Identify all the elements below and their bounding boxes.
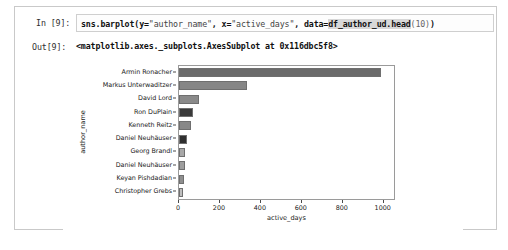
y-tick-mark xyxy=(173,98,176,99)
y-tick-label: Armin Ronacher xyxy=(122,68,172,76)
y-tick-label: Kenneth Reitz xyxy=(129,121,173,129)
bar xyxy=(179,121,191,130)
x-tick-label: 0 xyxy=(176,204,180,212)
bar-row xyxy=(179,106,394,119)
code-x-keyword: x= xyxy=(222,19,232,29)
matplotlib-figure: author_name Armin RonacherMarkus Unterwa… xyxy=(63,59,463,231)
x-tick-mark xyxy=(219,200,220,203)
y-tick-mark xyxy=(173,164,176,165)
code-y-value: "author_name" xyxy=(149,19,212,29)
y-tick-label: Daniel Neuhäuser xyxy=(116,134,172,142)
x-axis-title: active_days xyxy=(178,214,395,222)
y-tick-mark xyxy=(173,111,176,112)
bar xyxy=(179,81,247,90)
y-tick-label: Georg Brandl xyxy=(130,147,172,155)
y-tick-label: David Lord xyxy=(138,94,172,102)
output-repr-text: <matplotlib.axes._subplots.AxesSubplot a… xyxy=(76,41,338,51)
bar xyxy=(179,188,183,197)
code-close-paren: ) xyxy=(430,19,435,29)
bar xyxy=(179,175,184,184)
x-tick-mark xyxy=(301,200,302,203)
code-head-arg: (10) xyxy=(411,19,430,29)
bar xyxy=(179,95,199,104)
code-call: sns.barplot( xyxy=(81,19,139,29)
x-tick-label: 200 xyxy=(213,204,225,212)
bar xyxy=(179,135,187,144)
bar xyxy=(179,68,381,77)
x-tick-label: 1000 xyxy=(375,204,391,212)
bar-row xyxy=(179,159,394,172)
bar-row xyxy=(179,79,394,92)
output-row: Out[9]: <matplotlib.axes._subplots.AxesS… xyxy=(15,38,496,54)
notebook-cell: In [9]: sns.barplot(y="author_name", x="… xyxy=(14,6,497,230)
y-tick-label: Keyan Pishdadian xyxy=(117,174,172,182)
code-data-value: df_author_ud.head xyxy=(328,19,410,29)
y-tick-mark xyxy=(173,151,176,152)
code-sep-2: , xyxy=(294,19,304,29)
y-tick-label-group: Armin RonacherMarkus UnterwaditzerDavid … xyxy=(63,65,176,200)
input-row: In [9]: sns.barplot(y="author_name", x="… xyxy=(15,14,496,33)
output-prompt: Out[9]: xyxy=(32,42,66,52)
x-tick-mark xyxy=(342,200,343,203)
bar-row xyxy=(179,66,394,79)
screenshot-root: In [9]: sns.barplot(y="author_name", x="… xyxy=(0,0,508,250)
y-tick-mark xyxy=(173,124,176,125)
y-tick-mark xyxy=(173,71,176,72)
x-tick-label: 400 xyxy=(254,204,266,212)
y-tick-label: Christopher Grebs xyxy=(115,187,172,195)
y-tick-mark xyxy=(173,138,176,139)
bar-row xyxy=(179,146,394,159)
code-x-value: "active_days" xyxy=(231,19,294,29)
y-tick-mark xyxy=(173,178,176,179)
code-data-keyword: data= xyxy=(304,19,328,29)
y-tick-label: Markus Unterwaditzer xyxy=(103,81,172,89)
plot-area xyxy=(178,65,395,200)
bar-row xyxy=(179,119,394,132)
y-tick-label: Daniel Neuhäuser xyxy=(116,161,172,169)
x-tick-mark xyxy=(178,200,179,203)
bar-row xyxy=(179,93,394,106)
bar xyxy=(179,161,185,170)
bar xyxy=(179,148,185,157)
code-text: sns.barplot(y="author_name", x="active_d… xyxy=(81,19,435,29)
y-tick-mark xyxy=(173,84,176,85)
y-tick-label: Ron DuPlain xyxy=(134,108,172,116)
code-input-box[interactable]: sns.barplot(y="author_name", x="active_d… xyxy=(76,14,494,32)
y-tick-mark xyxy=(173,191,176,192)
code-sep-1: , xyxy=(212,19,222,29)
input-prompt: In [9]: xyxy=(36,18,70,28)
bar-row xyxy=(179,172,394,185)
x-tick-mark xyxy=(260,200,261,203)
x-tick-label: 800 xyxy=(336,204,348,212)
x-tick-mark xyxy=(383,200,384,203)
bar-row xyxy=(179,186,394,199)
bar-row xyxy=(179,132,394,145)
code-y-keyword: y= xyxy=(139,19,149,29)
x-tick-label: 600 xyxy=(295,204,307,212)
bar xyxy=(179,108,193,117)
bar-group xyxy=(179,66,394,199)
